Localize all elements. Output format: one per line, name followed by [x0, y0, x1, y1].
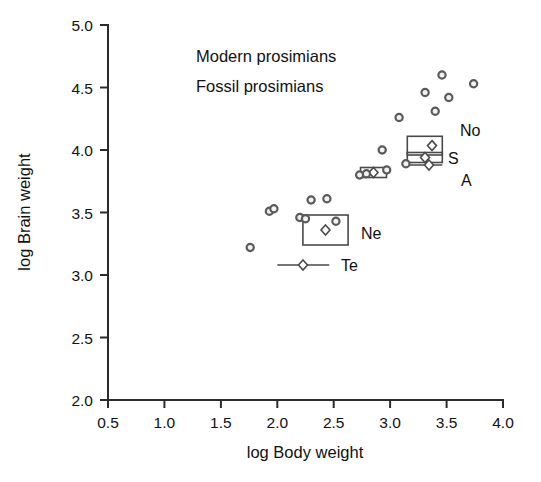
x-axis-title: log Body weight: [247, 443, 364, 461]
data-point: [432, 108, 439, 115]
x-tick-labels: 0.5 1.0 1.5 2.0 2.5 3.0 3.5 4.0: [97, 414, 514, 431]
y-tick-label: 4.5: [71, 80, 93, 97]
data-point: [308, 196, 315, 203]
annotation-label-s: S: [448, 150, 459, 167]
data-point: [270, 205, 277, 212]
annotation-label-a: A: [461, 172, 472, 189]
data-point: [323, 195, 330, 202]
data-point: [379, 146, 386, 153]
diamond-marker-ne: [321, 225, 330, 235]
x-tick-label: 0.5: [97, 414, 119, 431]
x-tick-label: 1.0: [154, 414, 176, 431]
data-point: [302, 215, 309, 222]
annotation-labels: Ne Te No S A: [341, 122, 481, 274]
x-tick-label: 4.0: [492, 414, 514, 431]
x-tick-label: 3.0: [379, 414, 401, 431]
y-tick-label: 2.0: [71, 392, 93, 409]
x-tick-label: 2.5: [323, 414, 345, 431]
annotation-label-te: Te: [341, 257, 358, 274]
legend-item-modern: Modern prosimians: [196, 47, 336, 65]
x-axis-ticks: [108, 400, 503, 408]
y-axis-title: log Brain weight: [15, 153, 33, 271]
data-point: [363, 170, 370, 177]
y-axis-ticks: [100, 25, 108, 400]
fossil-range-group: [277, 136, 442, 270]
y-tick-label: 2.5: [71, 330, 93, 347]
y-tick-label: 3.5: [71, 205, 93, 222]
y-tick-label: 4.0: [71, 142, 93, 159]
chart-figure: 2.0 2.5 3.0 3.5 4.0 4.5 5.0 0.5 1.0 1.5 …: [0, 0, 541, 482]
data-point: [247, 244, 254, 251]
scatter-plot: 2.0 2.5 3.0 3.5 4.0 4.5 5.0 0.5 1.0 1.5 …: [0, 0, 541, 482]
data-point: [438, 71, 445, 78]
data-point: [445, 94, 452, 101]
y-tick-label: 3.0: [71, 267, 93, 284]
data-point: [422, 89, 429, 96]
data-point: [396, 114, 403, 121]
x-tick-label: 3.5: [436, 414, 458, 431]
data-point: [383, 166, 390, 173]
y-tick-labels: 2.0 2.5 3.0 3.5 4.0 4.5 5.0: [71, 17, 93, 409]
diamond-marker-no: [428, 141, 437, 151]
legend-item-fossil: Fossil prosimians: [196, 77, 323, 95]
y-tick-label: 5.0: [71, 17, 93, 34]
x-tick-label: 1.5: [210, 414, 232, 431]
data-point: [332, 218, 339, 225]
data-point: [470, 80, 477, 87]
diamond-marker-te: [299, 260, 308, 270]
annotation-label-ne: Ne: [361, 225, 382, 242]
data-point: [402, 160, 409, 167]
x-tick-label: 2.0: [267, 414, 289, 431]
annotation-label-no: No: [460, 122, 481, 139]
